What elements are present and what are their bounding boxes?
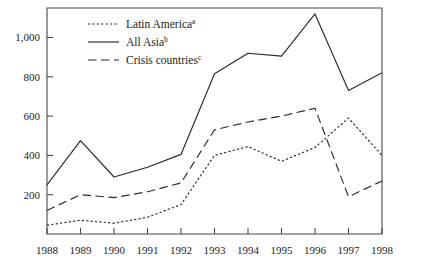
x-tick-label: 1995: [271, 244, 294, 256]
x-tick-label: 1992: [170, 244, 192, 256]
chart-svg: 2004006008001,000 1988198919901991199219…: [0, 0, 426, 266]
y-tick-label: 800: [24, 71, 41, 83]
y-tick-label: 1,000: [15, 31, 40, 43]
x-tick-label: 1988: [36, 244, 59, 256]
legend-footnote-marker: c: [198, 53, 202, 62]
legend-label: All Asiab: [126, 35, 168, 48]
series-line-all-asia: [47, 14, 382, 185]
x-tick-label: 1997: [338, 244, 361, 256]
y-tick-label: 400: [24, 149, 41, 161]
x-tick-label: 1989: [70, 244, 93, 256]
x-tick-label: 1998: [371, 244, 394, 256]
x-tick-label: 1993: [204, 244, 227, 256]
series-line-latin-america: [47, 118, 382, 225]
line-chart: 2004006008001,000 1988198919901991199219…: [0, 0, 426, 266]
x-tick-label: 1990: [103, 244, 126, 256]
chart-legend: Latin AmericaaAll AsiabCrisis countriesc: [88, 17, 202, 66]
y-axis-ticks: [47, 37, 53, 194]
y-axis-labels: 2004006008001,000: [15, 31, 40, 200]
legend-label: Latin Americaa: [126, 17, 196, 30]
y-tick-label: 600: [24, 110, 41, 122]
x-tick-label: 1996: [304, 244, 327, 256]
x-tick-label: 1994: [237, 244, 260, 256]
x-tick-label: 1991: [137, 244, 159, 256]
y-tick-label: 200: [24, 189, 41, 201]
legend-label: Crisis countriesc: [126, 53, 202, 66]
x-axis-ticks: [47, 228, 382, 234]
legend-footnote-marker: a: [192, 17, 196, 26]
data-series-group: [47, 14, 382, 225]
x-axis-labels: 1988198919901991199219931994199519961997…: [36, 244, 394, 256]
legend-footnote-marker: b: [164, 35, 168, 44]
